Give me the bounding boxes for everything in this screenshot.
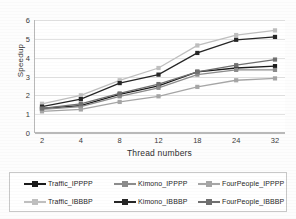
data-point-marker — [273, 64, 277, 68]
data-point-marker — [273, 68, 277, 72]
legend-swatch-icon — [198, 179, 220, 188]
legend-item-traffic_ipppp[interactable]: Traffic_IPPPP — [24, 175, 93, 192]
x-tick-label: 2 — [40, 136, 44, 145]
x-tick-label: 4 — [79, 136, 83, 145]
data-point-marker — [79, 107, 83, 111]
data-point-marker — [79, 102, 83, 106]
data-point-marker — [273, 28, 277, 32]
x-tick-label: 12 — [154, 136, 162, 145]
data-point-marker — [118, 91, 122, 95]
x-axis-title: Thread numbers — [34, 148, 285, 158]
data-point-marker — [195, 70, 199, 74]
legend-label: Traffic_IBBBP — [48, 198, 93, 205]
y-tick-label: 1 — [12, 110, 30, 119]
data-point-marker — [79, 93, 83, 97]
legend-label: Traffic_IPPPP — [48, 180, 93, 187]
x-tick-label: 18 — [193, 136, 201, 145]
data-point-marker — [118, 81, 122, 85]
data-point-marker — [273, 76, 277, 80]
data-point-marker — [40, 106, 44, 110]
legend-label: FourPeople_IPPPP — [222, 180, 284, 187]
data-point-marker — [156, 94, 160, 98]
y-axis-title: Speedup — [16, 21, 25, 101]
data-point-marker — [234, 33, 238, 37]
legend-item-fourpeople_ipppp[interactable]: FourPeople_IPPPP — [198, 175, 284, 192]
data-point-marker — [234, 63, 238, 67]
chart-figure: 0123456 Speedup 24812182432 Thread numbe… — [0, 0, 296, 219]
data-point-marker — [234, 38, 238, 42]
legend-label: Kimono_IPPPP — [138, 180, 187, 187]
data-point-marker — [234, 68, 238, 72]
legend-swatch-icon — [198, 197, 220, 206]
legend-row: Traffic_IBBBPKimono_IBBBPFourPeople_IBBB… — [10, 193, 286, 210]
data-point-marker — [79, 97, 83, 101]
data-point-marker — [118, 100, 122, 104]
legend-swatch-icon — [114, 197, 136, 206]
data-point-marker — [195, 51, 199, 55]
legend-item-kimono_ibbbp[interactable]: Kimono_IBBBP — [114, 193, 187, 210]
data-point-marker — [156, 82, 160, 86]
x-tick-label: 32 — [271, 136, 279, 145]
data-point-marker — [273, 57, 277, 61]
legend-item-kimono_ipppp[interactable]: Kimono_IPPPP — [114, 175, 187, 192]
legend-swatch-icon — [24, 197, 46, 206]
legend-row: Traffic_IPPPPKimono_IPPPPFourPeople_IPPP… — [10, 175, 286, 192]
data-point-marker — [156, 66, 160, 70]
legend-label: FourPeople_IBBBP — [222, 198, 284, 205]
y-tick-label: 0 — [12, 129, 30, 138]
legend-swatch-icon — [114, 179, 136, 188]
data-point-marker — [273, 35, 277, 39]
data-point-marker — [195, 85, 199, 89]
data-point-marker — [156, 86, 160, 90]
data-point-marker — [234, 78, 238, 82]
chart-series-layer — [34, 20, 285, 133]
x-tick-label: 24 — [232, 136, 240, 145]
x-tick-label: 8 — [118, 136, 122, 145]
gridline-y-0 — [35, 133, 285, 134]
legend-item-traffic_ibbbp[interactable]: Traffic_IBBBP — [24, 193, 93, 210]
legend-item-fourpeople_ibbbp[interactable]: FourPeople_IBBBP — [198, 193, 284, 210]
chart-legend: Traffic_IPPPPKimono_IPPPPFourPeople_IPPP… — [9, 172, 287, 212]
legend-swatch-icon — [24, 179, 46, 188]
data-point-marker — [156, 73, 160, 77]
legend-label: Kimono_IBBBP — [138, 198, 187, 205]
data-point-marker — [195, 43, 199, 47]
